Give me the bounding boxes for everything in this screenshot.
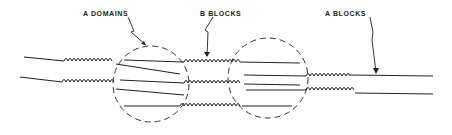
chain-1 bbox=[24, 57, 180, 74]
label-a-domains: A DOMAINS bbox=[83, 10, 128, 17]
copolymer-diagram bbox=[0, 0, 452, 135]
chain-3 bbox=[124, 60, 300, 64]
label-a-blocks: A BLOCKS bbox=[325, 10, 366, 17]
a-domains-arrow bbox=[128, 17, 146, 45]
chain-7 bbox=[246, 88, 433, 95]
a-domain-circle-1 bbox=[113, 46, 189, 122]
label-b-blocks: B BLOCKS bbox=[200, 10, 241, 17]
chain-6 bbox=[244, 74, 433, 77]
a-blocks-arrow bbox=[370, 17, 379, 74]
chain-5 bbox=[124, 104, 292, 107]
chain-2 bbox=[20, 77, 184, 95]
chain-4 bbox=[120, 80, 300, 85]
b-blocks-arrow bbox=[204, 17, 213, 57]
diagram-canvas: A DOMAINS B BLOCKS A BLOCKS bbox=[0, 0, 452, 135]
